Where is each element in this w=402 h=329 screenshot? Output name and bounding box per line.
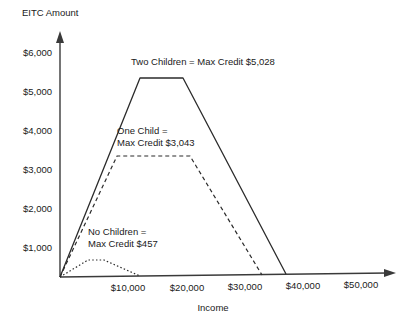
y-axis-title: EITC Amount — [22, 7, 79, 18]
y-tick-label-5000: $5,000 — [23, 86, 52, 97]
y-tick-label-2000: $2,000 — [23, 203, 52, 214]
series-line-one-child — [60, 156, 262, 277]
y-tick-label-3000: $3,000 — [23, 164, 52, 175]
x-axis-title: Income — [197, 302, 228, 313]
x-axis-line — [60, 273, 388, 277]
series-line-no-children — [60, 260, 140, 277]
eitc-amount-chart: EITC Amount Income $1,000 $2,000 $3,000 … — [0, 0, 402, 329]
y-tick-labels: $1,000 $2,000 $3,000 $4,000 $5,000 $6,00… — [23, 47, 52, 253]
x-tick-label-30000: $30,000 — [228, 281, 262, 292]
annotation-one-child-line1: One Child = — [117, 125, 168, 136]
y-tick-label-4000: $4,000 — [23, 125, 52, 136]
chart-page: EITC Amount Income $1,000 $2,000 $3,000 … — [0, 0, 402, 329]
x-tick-label-50000: $50,000 — [344, 279, 378, 290]
y-tick-label-1000: $1,000 — [23, 242, 52, 253]
annotation-no-children-line2: Max Credit $457 — [88, 238, 158, 249]
x-tick-label-40000: $40,000 — [286, 280, 320, 291]
y-axis-arrow-icon — [56, 31, 64, 43]
x-axis-arrow-icon — [384, 269, 396, 277]
annotation-no-children-line1: No Children = — [88, 226, 147, 237]
annotation-one-child-line2: Max Credit $3,043 — [117, 137, 195, 148]
x-tick-label-10000: $10,000 — [111, 282, 145, 293]
annotation-two-children: Two Children = Max Credit $5,028 — [131, 56, 275, 67]
x-tick-label-20000: $20,000 — [170, 282, 204, 293]
y-tick-label-6000: $6,000 — [23, 47, 52, 58]
x-tick-labels: $10,000 $20,000 $30,000 $40,000 $50,000 — [111, 279, 378, 293]
